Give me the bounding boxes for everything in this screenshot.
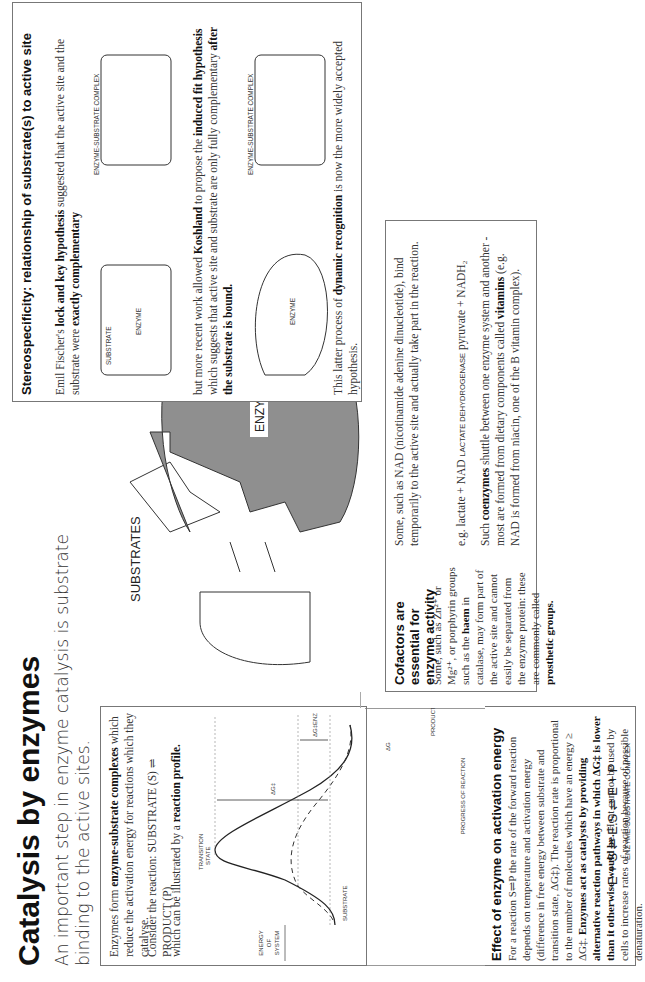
svg-text:SUBSTRATE: SUBSTRATE	[105, 326, 112, 365]
cofactors-box: Cofactors are essential for enzyme activ…	[385, 220, 537, 692]
svg-text:ΔG‡: ΔG‡	[270, 783, 276, 795]
page-title: Catalysis by enzymes	[12, 656, 46, 966]
svg-text:SYSTEM: SYSTEM	[274, 931, 280, 956]
activation-energy-section: Effect of enzyme on activation energy Fo…	[485, 706, 636, 966]
reaction-profile-chart-lower: PROGRESS OF REACTION PRODUCT ΔG	[365, 708, 485, 966]
svg-text:ENZYME: ENZYME	[135, 307, 142, 335]
svg-text:OF: OF	[266, 939, 272, 948]
textbook-page: Catalysis by enzymes An important step i…	[0, 0, 645, 982]
intro-text: An important step in enzyme catalysis is…	[52, 496, 94, 966]
svg-text:ENERGY: ENERGY	[258, 930, 264, 955]
svg-text:ENZYME-SUBSTRATE COMPLEX: ENZYME-SUBSTRATE COMPLEX	[247, 73, 254, 175]
lock-and-key-diagram: SUBSTRATE ENZYME ENZYME-SUBSTRATE COMPLE…	[91, 15, 181, 395]
svg-text:ΔG: ΔG	[385, 742, 391, 751]
svg-text:STATE: STATE	[205, 847, 211, 865]
x-axis-label: PROGRESS OF REACTION	[460, 758, 466, 835]
connector-line	[360, 692, 361, 708]
lactate-equation: e.g. lactate + NAD LACTATE DEHYDROGENASE…	[454, 236, 470, 546]
profile-caption: which can be illustrated by a reaction p…	[169, 707, 184, 957]
svg-text:ENZYME: ENZYME	[289, 297, 296, 325]
svg-text:TRANSITION: TRANSITION	[198, 834, 204, 870]
induced-fit-diagram: ENZYME ENZYME-SUBSTRATE COMPLEX	[245, 15, 335, 395]
reaction-profile-chart: ENERGY OF SYSTEM ΔG‡ ΔG‡ENZ TRANSITION S…	[185, 707, 365, 965]
reaction-profile-box: Enzymes form enzyme-substrate complexes …	[100, 706, 367, 966]
svg-text:ENZYME-SUBSTRATE COMPLEX: ENZYME-SUBSTRATE COMPLEX	[93, 73, 100, 175]
svg-text:SUBSTRATE: SUBSTRATE	[342, 885, 348, 921]
enzyme-equation: E + S ⇌ E.S ⇌ E + P	[605, 763, 620, 885]
substrates-label: SUBSTRATES	[128, 516, 143, 602]
stereospecificity-box: Stereospecificity: relationship of subst…	[12, 2, 362, 402]
svg-text:PRODUCT: PRODUCT	[430, 708, 436, 736]
svg-text:ΔG‡ENZ: ΔG‡ENZ	[312, 713, 318, 737]
